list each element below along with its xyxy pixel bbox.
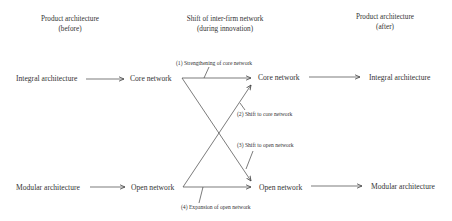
arrow-core-to-open-shift — [182, 78, 251, 181]
leader-line-4 — [199, 187, 203, 203]
leader-line-2 — [240, 103, 245, 110]
diagram-lines — [0, 0, 452, 221]
leader-line-1 — [204, 67, 209, 78]
arrow-open-to-core-shift — [183, 85, 251, 187]
leader-line-3 — [246, 151, 253, 169]
